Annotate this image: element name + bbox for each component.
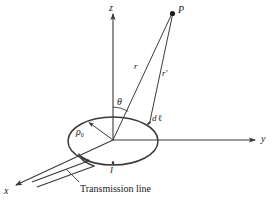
axis-x [16, 140, 113, 185]
rho-zero-radius-arrow [89, 123, 113, 141]
point-p-marker [170, 11, 175, 16]
rho-subscript: 0 [81, 132, 84, 138]
current-label: I [110, 166, 113, 175]
z-axis-label: z [109, 3, 113, 13]
vector-r-label: r [134, 62, 138, 71]
x-axis-line [16, 140, 113, 185]
y-axis-label: y [261, 134, 265, 144]
figure-canvas: z y x P r r′ θ ρ0 I dℓ Transmission line [0, 0, 276, 207]
point-p-label: P [178, 5, 184, 15]
transmission-line-caption: Transmission line [80, 184, 151, 194]
theta-angle-label: θ [117, 97, 122, 107]
d-symbol: d [152, 113, 157, 123]
d-ell-label: dℓ [152, 114, 162, 123]
vector-r-prime-line [150, 15, 173, 124]
rho-zero-label: ρ0 [76, 127, 84, 138]
x-axis-label: x [4, 186, 8, 196]
theta-arc [113, 107, 128, 111]
script-ell-symbol: ℓ [157, 113, 163, 123]
diagram-svg [0, 0, 276, 207]
vector-r-prime-label: r′ [162, 69, 167, 78]
vector-r-prime-mark: ′ [166, 68, 168, 78]
